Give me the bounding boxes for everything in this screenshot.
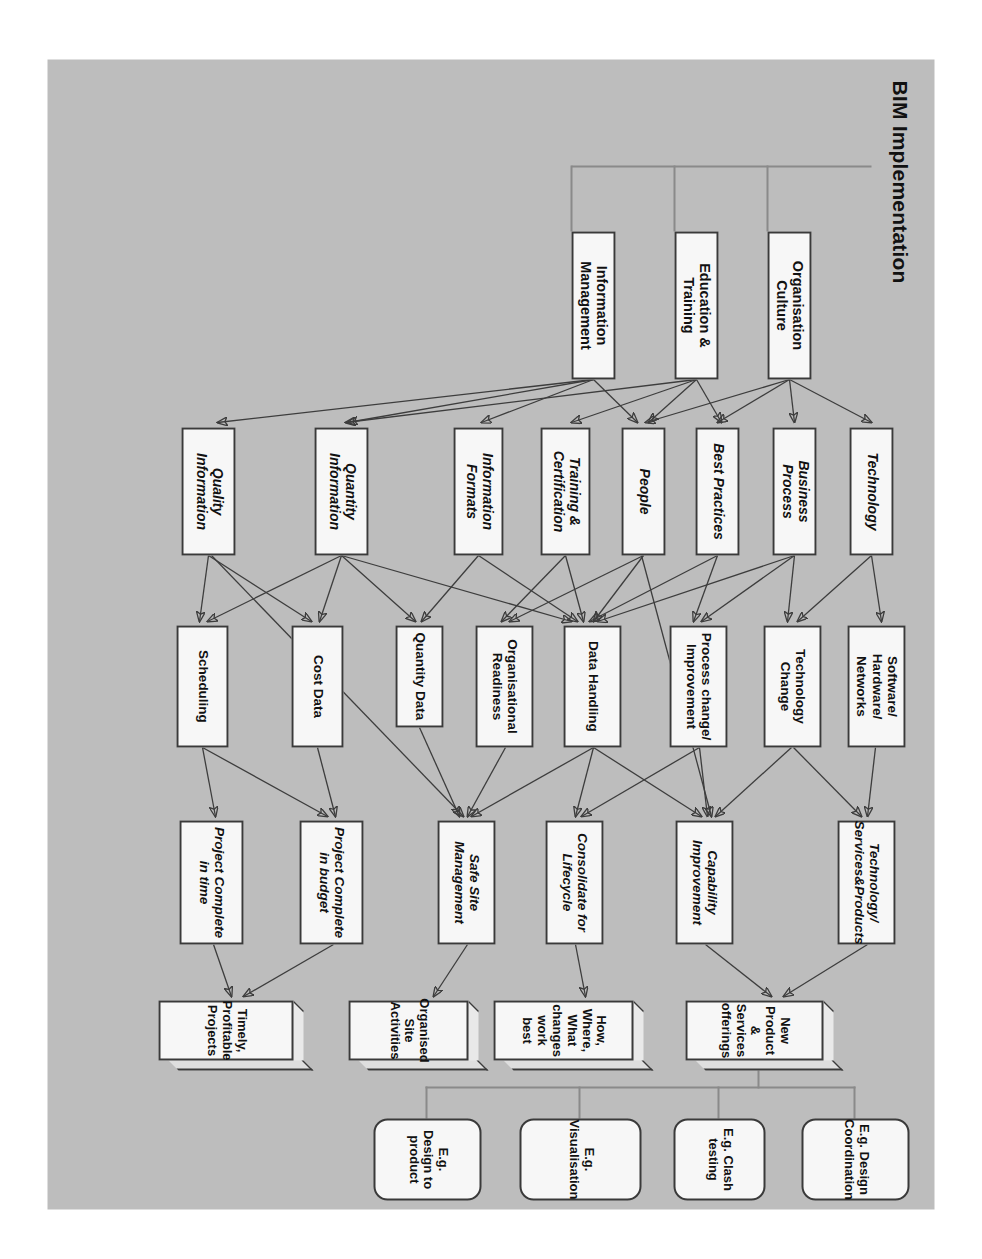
node-label: Organised Site Activities: [386, 998, 430, 1062]
node-label: Technology: [864, 452, 880, 530]
node-organisation-culture[interactable]: Organisation Culture: [768, 232, 812, 380]
node-quantity-data[interactable]: Quantity Data: [396, 626, 444, 728]
diagram-canvas: BIM Implementation Organisation Culture …: [49, 61, 934, 1209]
cube-how-where-what[interactable]: How, Where, What changes work best: [494, 1001, 644, 1071]
node-best-practices[interactable]: Best Practices: [696, 428, 740, 556]
node-technology-change[interactable]: Technology Change: [764, 626, 822, 748]
node-label: Project Complete in budget: [316, 826, 346, 940]
node-label: Scheduling: [195, 650, 210, 723]
node-cost-data[interactable]: Cost Data: [292, 626, 344, 748]
node-data-handling[interactable]: Data Handling: [564, 626, 622, 748]
node-process-change-improvement[interactable]: Process change/ Improvement: [670, 626, 728, 748]
node-label: Organisation Culture: [773, 237, 805, 375]
node-business-process[interactable]: Business Process: [773, 428, 817, 556]
node-education-training[interactable]: Education & Training: [675, 232, 719, 380]
node-label: Software/ Hardware/ Networks: [854, 631, 899, 743]
node-information-management[interactable]: Information Management: [572, 232, 616, 380]
node-label: Quantity Data: [412, 633, 427, 721]
node-label: Safe Site Management: [451, 826, 481, 940]
page-title: BIM Implementation: [888, 81, 912, 284]
cube-side-face: [169, 1061, 314, 1071]
capsule-eg-clash-testing[interactable]: E.g. Clash testing: [674, 1119, 766, 1201]
node-label: Best Practices: [710, 443, 726, 540]
node-label: E.g. Design Coordination: [841, 1119, 870, 1200]
node-label: Timely, Profitable Projects: [204, 1001, 248, 1061]
capsule-eg-design-coordination[interactable]: E.g. Design Coordination: [802, 1119, 910, 1201]
node-consolidate-for-lifecycle[interactable]: Consolidate for Lifecycle: [546, 821, 604, 945]
node-label: Information Management: [577, 237, 609, 375]
node-label: Quality Information: [193, 433, 224, 551]
node-training-certification[interactable]: Training & Certification: [541, 428, 591, 556]
node-label: How, Where, What changes work best: [519, 1004, 608, 1057]
node-safe-site-management[interactable]: Safe Site Management: [438, 821, 496, 945]
node-technology[interactable]: Technology: [850, 428, 894, 556]
node-people[interactable]: People: [622, 428, 666, 556]
node-label: Cost Data: [310, 655, 325, 718]
capsule-eg-visualisation[interactable]: E.g. Visualisation: [520, 1119, 642, 1201]
node-label: Information Formats: [463, 433, 494, 551]
node-label: Data Handling: [585, 641, 600, 732]
node-label: Technology Change: [777, 631, 807, 743]
node-project-complete-in-budget[interactable]: Project Complete in budget: [300, 821, 364, 945]
node-label: Business Process: [779, 433, 810, 551]
node-information-formats[interactable]: Information Formats: [454, 428, 504, 556]
cube-new-product-services[interactable]: New Product & Services offerings: [686, 1001, 834, 1071]
node-label: Process change/ Improvement: [683, 631, 713, 743]
cube-organised-site-activities[interactable]: Organised Site Activities: [349, 1001, 479, 1071]
node-label: Quantity Information: [326, 433, 357, 551]
node-label: E.g. Clash testing: [705, 1125, 734, 1195]
node-label: E.g. Design to product: [406, 1125, 450, 1195]
node-label: Project Complete in time: [196, 826, 226, 940]
node-label: Organisational Readiness: [489, 631, 519, 743]
node-label: Consolidate for Lifecycle: [559, 826, 589, 940]
node-label: E.g. Visualisation: [566, 1120, 595, 1200]
node-label: Education & Training: [680, 237, 712, 375]
node-project-complete-in-time[interactable]: Project Complete in time: [180, 821, 244, 945]
node-label: Capability Improvement: [689, 826, 719, 940]
cube-side-face: [504, 1061, 654, 1071]
node-organisational-readiness[interactable]: Organisational Readiness: [476, 626, 534, 748]
node-software-hardware-networks[interactable]: Software/ Hardware/ Networks: [848, 626, 906, 748]
node-label: Training & Certification: [550, 433, 581, 551]
node-quality-information[interactable]: Quality Information: [182, 428, 236, 556]
node-quantity-information[interactable]: Quantity Information: [315, 428, 369, 556]
capsule-eg-design-to-product[interactable]: E.g. Design to product: [374, 1119, 482, 1201]
node-capability-improvement[interactable]: Capability Improvement: [676, 821, 734, 945]
cube-timely-profitable-projects[interactable]: Timely, Profitable Projects: [159, 1001, 304, 1071]
node-label: New Product & Services offerings: [717, 1003, 791, 1059]
node-scheduling[interactable]: Scheduling: [177, 626, 229, 748]
cube-side-face: [696, 1061, 844, 1071]
node-label: Technology/ Services&Products: [851, 821, 881, 945]
node-technology-services-products[interactable]: Technology/ Services&Products: [838, 821, 896, 945]
node-label: People: [636, 469, 652, 515]
